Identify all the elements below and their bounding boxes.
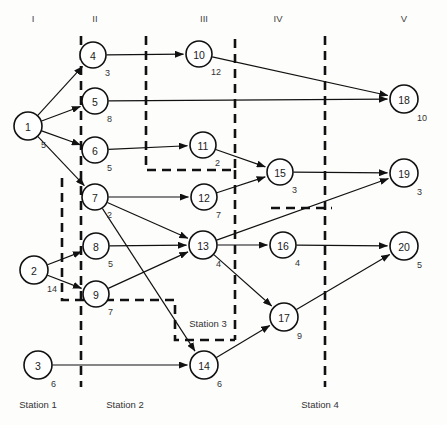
node-19[interactable]: 193 [390,159,422,197]
node-duration-16: 4 [295,258,300,268]
node-duration-4: 3 [105,68,110,78]
node-label-18: 18 [398,94,410,106]
node-label-2: 2 [31,265,37,277]
node-label-12: 12 [198,192,210,204]
node-label-17: 17 [278,312,290,324]
node-20[interactable]: 205 [390,232,422,270]
node-label-3: 3 [35,360,41,372]
node-5[interactable]: 58 [82,88,112,124]
node-6[interactable]: 65 [82,137,112,173]
edge-15-to-19 [293,172,387,173]
node-2[interactable]: 214 [20,256,57,294]
node-duration-6: 5 [107,163,112,173]
edge-13-to-19 [217,179,389,241]
edge-16-to-20 [296,245,387,246]
column-header-V: V [401,13,408,24]
node-duration-3: 6 [51,379,56,389]
node-label-15: 15 [274,167,286,179]
station-boundary-zones [62,36,332,387]
node-7[interactable]: 72 [82,184,112,220]
node-duration-14: 6 [217,379,222,389]
node-duration-20: 5 [417,260,422,270]
network-diagram-svg: 1521436435865728597101211212713414615316… [0,0,447,425]
node-label-1: 1 [25,121,31,133]
edge-1-to-5 [42,106,81,121]
edge-11-to-15 [216,149,266,166]
node-3[interactable]: 36 [24,351,56,389]
node-label-14: 14 [198,360,210,372]
edge-17-to-20 [296,254,389,309]
edge-7-to-13 [107,202,188,238]
node-12[interactable]: 127 [191,184,221,220]
edge-10-to-18 [212,57,388,96]
node-duration-11: 2 [215,158,220,168]
edge-13-to-17 [214,255,272,306]
node-duration-8: 5 [108,259,113,269]
node-duration-19: 3 [417,187,422,197]
activity-nodes: 1521436435865728597101211212713414615316… [14,41,427,389]
edge-6-to-11 [108,146,187,150]
node-15[interactable]: 153 [267,159,297,195]
column-header-II: II [92,13,97,24]
edge-12-to-15 [217,177,265,193]
edge-14-to-17 [216,325,269,357]
edge-4-to-10 [106,54,183,55]
node-11[interactable]: 112 [190,132,220,168]
station-label-2: Station 2 [106,399,144,410]
node-4[interactable]: 43 [80,42,110,78]
node-9[interactable]: 97 [83,281,113,317]
column-header-IV: IV [274,13,284,24]
edge-9-to-13 [108,252,188,289]
node-duration-1: 5 [41,140,46,150]
edge-8-to-13 [109,245,186,246]
edge-5-to-18 [108,99,387,101]
node-label-4: 4 [90,50,96,62]
node-duration-9: 7 [108,307,113,317]
node-label-10: 10 [193,49,205,61]
node-label-19: 19 [398,168,410,180]
node-label-7: 7 [92,192,98,204]
station-label-1: Station 1 [19,399,57,410]
edge-7-to-14 [102,208,195,351]
node-label-13: 13 [197,240,209,252]
node-duration-18: 10 [417,113,427,123]
station-label-3: Station 4 [301,399,339,410]
node-duration-13: 4 [216,259,221,269]
node-16[interactable]: 164 [270,232,300,268]
node-duration-10: 12 [211,67,221,77]
zone-label-1: Station 3 [189,318,227,329]
node-label-5: 5 [92,96,98,108]
edge-2-to-8 [48,252,82,265]
node-label-9: 9 [93,289,99,301]
node-18[interactable]: 1810 [390,85,427,123]
node-10[interactable]: 1012 [186,41,221,77]
column-header-III: III [200,13,208,24]
network-diagram-canvas: 1521436435865728597101211212713414615316… [0,0,447,425]
node-duration-12: 7 [216,210,221,220]
edge-1-to-6 [42,131,81,145]
node-13[interactable]: 134 [189,231,221,269]
node-label-20: 20 [398,241,410,253]
node-duration-15: 3 [292,185,297,195]
node-duration-17: 9 [297,331,302,341]
column-header-I: I [32,13,35,24]
node-label-16: 16 [277,240,289,252]
node-label-8: 8 [93,241,99,253]
node-label-11: 11 [198,140,209,152]
node-duration-2: 14 [47,284,57,294]
node-duration-7: 2 [107,210,112,220]
node-duration-5: 8 [107,114,112,124]
node-8[interactable]: 85 [83,233,113,269]
node-label-6: 6 [92,145,98,157]
node-1[interactable]: 15 [14,112,46,150]
